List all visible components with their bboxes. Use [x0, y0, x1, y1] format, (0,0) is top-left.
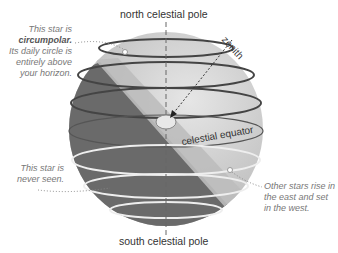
never-seen-note: This star is never seen.	[17, 163, 64, 185]
south-pole-label: south celestial pole	[119, 235, 208, 247]
north-pole-label: north celestial pole	[120, 8, 208, 20]
circumpolar-note: This star is circumpolar. Its daily circ…	[9, 24, 72, 79]
observer	[156, 115, 176, 129]
rise-set-note: Other stars rise in the east and set in …	[264, 181, 335, 214]
